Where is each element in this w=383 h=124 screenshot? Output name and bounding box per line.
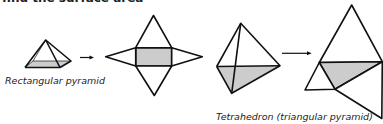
nets-diagram: Rectangular pyramid Tetrahedron (triangu… bbox=[0, 0, 383, 124]
net-face-top bbox=[136, 16, 172, 48]
net-face-bottom bbox=[136, 66, 172, 96]
net-face-right bbox=[172, 48, 203, 66]
rectangular-pyramid-net bbox=[106, 16, 203, 96]
rectangular-pyramid-solid bbox=[25, 40, 71, 68]
tetra-base bbox=[217, 66, 280, 94]
net-rect-base bbox=[136, 48, 172, 66]
label-rectangular-pyramid: Rectangular pyramid bbox=[5, 75, 106, 86]
tetrahedron-net bbox=[305, 5, 382, 119]
tetra-net-face-top bbox=[319, 5, 382, 63]
net-face-left bbox=[106, 48, 136, 66]
tetrahedron-solid bbox=[217, 23, 280, 93]
label-tetrahedron: Tetrahedron (triangular pyramid) bbox=[216, 111, 373, 122]
diagram-stage: find the surface area bbox=[0, 0, 383, 124]
arrow-icon bbox=[282, 51, 312, 55]
arrow-icon bbox=[80, 56, 94, 60]
